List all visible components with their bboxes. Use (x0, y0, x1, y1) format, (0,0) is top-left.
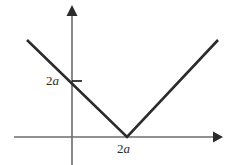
y-intercept-label: 2a (46, 74, 59, 87)
y-axis-arrow-icon (67, 5, 78, 16)
x-intercept-label: 2a (117, 142, 130, 155)
plot-canvas (0, 0, 228, 165)
y-intercept-variable: a (53, 73, 60, 88)
graph-figure: 2a 2a (0, 0, 228, 165)
x-axis-arrow-icon (213, 132, 223, 143)
absolute-value-curve (27, 40, 218, 137)
x-intercept-variable: a (124, 141, 131, 156)
